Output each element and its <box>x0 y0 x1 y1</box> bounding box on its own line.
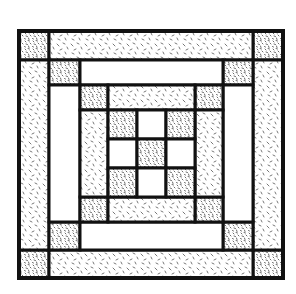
ring-2-bottom <box>80 222 223 250</box>
ring-3-right <box>195 110 223 197</box>
ring-3-top <box>108 85 195 110</box>
ring-2-right <box>223 85 253 222</box>
center-cell-0-0 <box>108 110 137 139</box>
center-cell-1-2 <box>166 139 195 168</box>
ring-3-corner-tl <box>80 85 108 110</box>
center-cell-0-2 <box>166 110 195 139</box>
ring-3-corner-bl <box>80 197 108 222</box>
center-cell-0-1 <box>137 110 166 139</box>
ring-1-top <box>49 31 253 60</box>
ring-3-corner-tr <box>195 85 223 110</box>
ring-3-left <box>80 110 108 197</box>
center-cell-2-0 <box>108 168 137 197</box>
ring-3-bottom <box>108 197 195 222</box>
ring-1-corner-tr <box>253 31 283 60</box>
center-cell-1-0 <box>108 139 137 168</box>
ring-1-right <box>253 60 283 250</box>
ring-2-corner-tl <box>49 60 80 85</box>
ring-2-left <box>49 85 80 222</box>
ring-1-left <box>19 60 49 250</box>
ring-2-top <box>80 60 223 85</box>
ring-3-corner-br <box>195 197 223 222</box>
center-cell-2-1 <box>137 168 166 197</box>
ring-1-bottom <box>49 250 253 278</box>
ring-1-corner-tl <box>19 31 49 60</box>
ring-1-corner-br <box>253 250 283 278</box>
center-cell-1-1 <box>137 139 166 168</box>
ring-2-corner-br <box>223 222 253 250</box>
center-cell-2-2 <box>166 168 195 197</box>
ring-1-corner-bl <box>19 250 49 278</box>
quilt-block-illustration <box>0 0 296 294</box>
quilt-block <box>19 31 283 278</box>
ring-2-corner-bl <box>49 222 80 250</box>
ring-2-corner-tr <box>223 60 253 85</box>
